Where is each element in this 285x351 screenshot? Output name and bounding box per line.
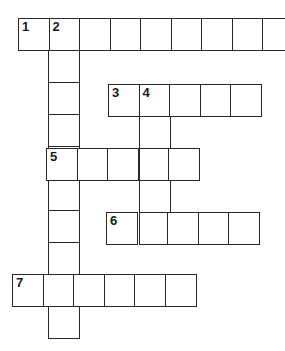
- crossword-cell[interactable]: [165, 274, 197, 307]
- crossword-cell[interactable]: [139, 116, 171, 149]
- crossword-cell[interactable]: [230, 84, 262, 117]
- crossword-cell[interactable]: [201, 18, 233, 51]
- crossword-cell[interactable]: [110, 18, 142, 51]
- crossword-cell[interactable]: 6: [106, 212, 138, 245]
- clue-number: 2: [53, 20, 60, 34]
- crossword-cell[interactable]: [171, 18, 203, 51]
- crossword-cell[interactable]: 5: [46, 148, 78, 181]
- crossword-cell[interactable]: 2: [49, 18, 81, 51]
- clue-number: 1: [22, 20, 29, 34]
- clue-number: 7: [16, 276, 23, 290]
- crossword-cell[interactable]: [200, 84, 232, 117]
- clue-number: 6: [110, 214, 117, 228]
- crossword-cell[interactable]: [139, 180, 171, 213]
- crossword-cell[interactable]: [169, 84, 201, 117]
- crossword-cell[interactable]: [104, 274, 136, 307]
- crossword-cell[interactable]: [79, 18, 111, 51]
- crossword-cell[interactable]: [48, 306, 80, 339]
- crossword-cell[interactable]: 4: [139, 84, 171, 117]
- crossword-cell[interactable]: [167, 212, 199, 245]
- crossword-cell[interactable]: [232, 18, 264, 51]
- clue-number: 5: [50, 150, 57, 164]
- crossword-cell[interactable]: 3: [108, 84, 140, 117]
- crossword-cell[interactable]: [73, 274, 105, 307]
- crossword-cell[interactable]: [198, 212, 230, 245]
- crossword-cell[interactable]: 7: [12, 274, 44, 307]
- crossword-cell[interactable]: [228, 212, 260, 245]
- crossword-cell[interactable]: [140, 18, 172, 51]
- crossword-cell[interactable]: [107, 148, 139, 181]
- clue-number: 4: [143, 86, 150, 100]
- crossword-cell[interactable]: [168, 148, 200, 181]
- crossword-cell[interactable]: [48, 114, 80, 147]
- crossword-cell[interactable]: [139, 148, 171, 181]
- crossword-cell[interactable]: [43, 274, 75, 307]
- crossword-grid: 1234567: [0, 0, 285, 351]
- crossword-cell[interactable]: [48, 82, 80, 115]
- crossword-cell[interactable]: [48, 210, 80, 243]
- crossword-cell[interactable]: [262, 18, 285, 51]
- crossword-cell[interactable]: [48, 242, 80, 275]
- crossword-cell[interactable]: [48, 178, 80, 211]
- crossword-cell[interactable]: 1: [18, 18, 50, 51]
- crossword-cell[interactable]: [77, 148, 109, 181]
- crossword-cell[interactable]: [134, 274, 166, 307]
- clue-number: 3: [112, 86, 119, 100]
- crossword-cell[interactable]: [48, 50, 80, 83]
